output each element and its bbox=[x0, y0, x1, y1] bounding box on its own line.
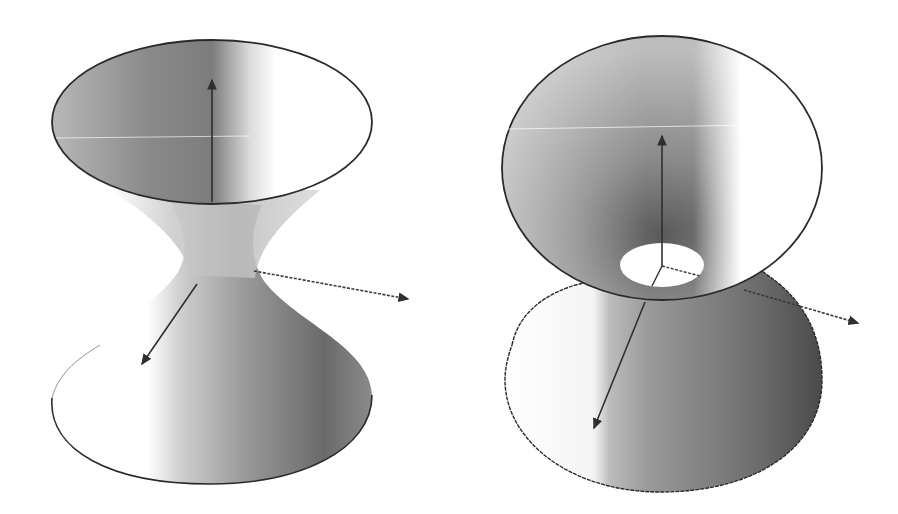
diagram-canvas bbox=[0, 0, 898, 514]
figure: Hyperboloid of one sheet with three coor… bbox=[0, 0, 898, 514]
hyperboloid bbox=[52, 40, 408, 484]
hyperboloid-y-axis bbox=[254, 271, 408, 299]
double-cone bbox=[502, 36, 858, 492]
cone-lower-nappe bbox=[505, 270, 822, 492]
